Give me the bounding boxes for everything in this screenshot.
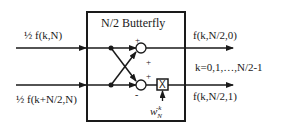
sign-bottom-upper: +	[146, 72, 151, 81]
cross-line-up	[111, 52, 136, 85]
input-label-bottom: ½ f(k+N/2,N)	[16, 94, 77, 105]
block-title: N/2 Butterfly	[101, 17, 165, 29]
sign-top-lower: +	[146, 58, 151, 67]
cross-line-down	[111, 48, 136, 81]
index-range-label: k=0,1,…,N/2-1	[195, 62, 263, 73]
output-label-top: f(k,N/2,0)	[193, 30, 237, 41]
multiplier-x-icon: X	[159, 80, 166, 90]
output-label-bottom: f(k,N/2,1)	[193, 91, 237, 102]
twiddle-factor: wN-k	[150, 105, 167, 120]
sign-bottom-lower: -	[135, 90, 138, 100]
sign-top-upper: +	[135, 36, 140, 45]
input-label-top: ½ f(k,N)	[24, 30, 62, 41]
